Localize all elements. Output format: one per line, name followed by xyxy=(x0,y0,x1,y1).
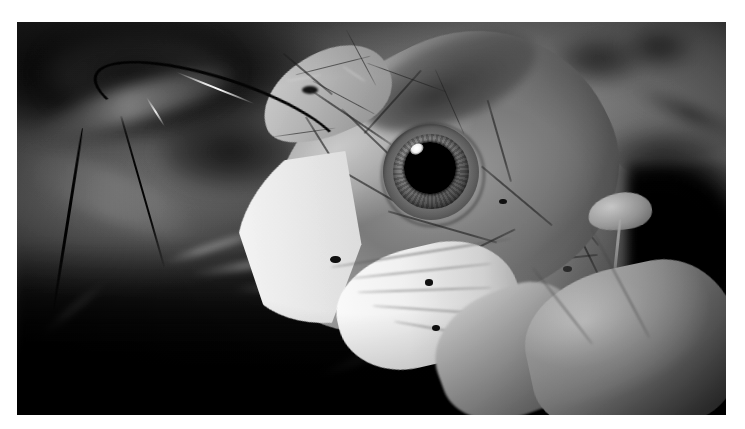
chin-spot-3 xyxy=(432,325,440,331)
photograph xyxy=(17,22,726,415)
leaf-spot xyxy=(563,266,572,272)
chin-spot-2 xyxy=(425,279,434,285)
background-blob-4 xyxy=(627,30,691,65)
photo-page xyxy=(0,0,745,429)
